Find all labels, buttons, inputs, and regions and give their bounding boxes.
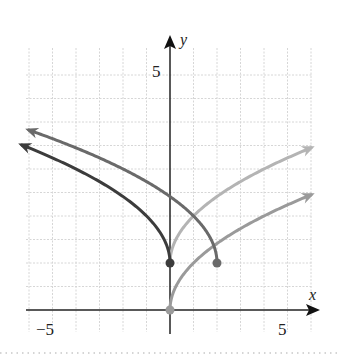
endpoint-dot	[213, 259, 222, 268]
y-tick-label-5: 5	[152, 62, 161, 81]
curve-sqrt-x-1	[22, 145, 170, 263]
endpoint-dot	[166, 259, 175, 268]
endpoint-dot	[166, 306, 175, 315]
x-tick-label-5: 5	[278, 320, 287, 339]
y-axis-label: y	[178, 31, 188, 49]
function-graph: x y −5 5 5	[0, 0, 337, 358]
grid-lines	[26, 48, 312, 332]
x-tick-label-neg5: −5	[36, 320, 54, 339]
x-axis-label: x	[308, 286, 316, 303]
axis-labels: x y −5 5 5	[36, 31, 316, 339]
